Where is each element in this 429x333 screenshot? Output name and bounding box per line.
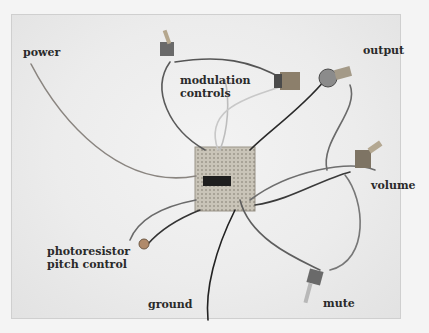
photoresistor bbox=[139, 239, 149, 249]
label-photoresistor-line1: photoresistor bbox=[47, 245, 130, 258]
label-photoresistor-line2: pitch control bbox=[47, 258, 130, 271]
modulation-pot bbox=[280, 72, 300, 90]
label-photoresistor-pitch-control: photoresistor pitch control bbox=[47, 245, 130, 271]
volume-pot bbox=[355, 150, 371, 168]
label-volume: volume bbox=[371, 179, 416, 192]
modulation-switch bbox=[160, 42, 174, 56]
power-wire bbox=[31, 64, 196, 178]
label-ground: ground bbox=[148, 298, 193, 311]
perfboard bbox=[195, 147, 255, 211]
output-jack bbox=[319, 69, 337, 87]
label-modulation-line2: controls bbox=[180, 87, 251, 100]
output-wire bbox=[250, 80, 325, 150]
label-mute: mute bbox=[323, 297, 355, 310]
label-modulation-line1: modulation bbox=[180, 74, 251, 87]
label-output: output bbox=[363, 44, 404, 57]
label-modulation-controls: modulation controls bbox=[180, 74, 251, 100]
ic-chip bbox=[203, 176, 231, 186]
ground-wire bbox=[207, 210, 235, 320]
label-power: power bbox=[23, 46, 60, 59]
